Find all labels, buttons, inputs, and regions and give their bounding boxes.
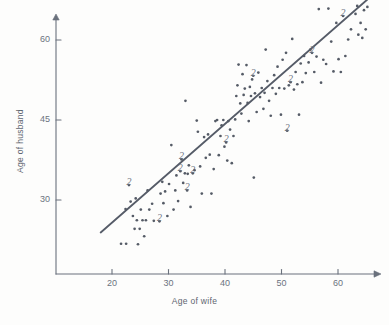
- data-point: [236, 84, 239, 87]
- data-point: [132, 215, 135, 218]
- data-point: [146, 189, 149, 192]
- data-point: [291, 38, 294, 41]
- data-point: [200, 192, 203, 195]
- x-tick-label-60: 60: [326, 278, 350, 288]
- data-point: [296, 83, 299, 86]
- data-point: [313, 71, 316, 74]
- x-tick-label-50: 50: [270, 278, 294, 288]
- data-point: [281, 58, 284, 61]
- duplicate-count-label: 2: [185, 181, 190, 192]
- data-point: [320, 81, 323, 84]
- data-point: [136, 219, 139, 222]
- data-point: [359, 22, 362, 25]
- data-point: [339, 71, 342, 74]
- data-point: [250, 95, 253, 98]
- data-point: [275, 93, 278, 96]
- data-point: [299, 62, 302, 65]
- data-point: [241, 73, 244, 76]
- data-point: [208, 153, 211, 156]
- data-point: [239, 102, 242, 105]
- data-point: [249, 86, 252, 89]
- data-point: [203, 136, 206, 139]
- data-point: [210, 192, 213, 195]
- data-point: [317, 8, 320, 11]
- duplicate-count-label: 2: [157, 212, 162, 223]
- data-point: [234, 118, 237, 121]
- data-point: [280, 113, 283, 116]
- data-point: [174, 189, 177, 192]
- data-point: [141, 219, 144, 222]
- data-point: [327, 7, 330, 10]
- data-point: [230, 162, 233, 165]
- data-point: [361, 37, 364, 40]
- data-point: [138, 227, 141, 230]
- data-point: [347, 38, 350, 41]
- data-point: [175, 174, 178, 177]
- data-point: [129, 200, 132, 203]
- data-point: [226, 159, 229, 162]
- axes-group: [53, 14, 381, 277]
- data-point: [219, 135, 222, 138]
- data-point: [356, 5, 359, 8]
- y-tick-label-60: 60: [28, 34, 50, 44]
- data-point: [217, 154, 220, 157]
- data-point: [273, 74, 276, 77]
- data-points-group: [120, 5, 369, 246]
- duplicate-count-label: 2: [288, 73, 293, 84]
- data-point: [216, 119, 219, 122]
- data-point: [237, 63, 240, 66]
- data-point: [366, 6, 369, 9]
- data-point: [159, 192, 162, 195]
- data-point: [223, 145, 226, 148]
- data-point: [364, 28, 367, 31]
- data-point: [271, 87, 274, 90]
- data-point: [268, 99, 271, 102]
- data-point: [199, 165, 202, 168]
- data-point: [145, 219, 148, 222]
- data-point: [245, 64, 248, 67]
- plot-canvas: 222222222222: [0, 0, 389, 325]
- data-point: [252, 176, 255, 179]
- data-point: [254, 92, 257, 95]
- data-point: [170, 144, 173, 147]
- data-point: [133, 227, 136, 230]
- data-point: [354, 13, 357, 16]
- duplicate-count-label: 2: [285, 122, 290, 133]
- y-tick-label-30: 30: [28, 194, 50, 204]
- data-point: [246, 102, 249, 105]
- duplicate-count-label: 2: [190, 164, 195, 175]
- data-point: [242, 94, 245, 97]
- duplicate-count-label: 2: [251, 67, 256, 78]
- data-point: [307, 61, 310, 64]
- data-point: [269, 114, 272, 117]
- data-point: [350, 28, 353, 31]
- data-point: [325, 63, 328, 66]
- data-point: [207, 133, 210, 136]
- data-point: [143, 235, 146, 238]
- y-tick-label-45: 45: [28, 114, 50, 124]
- data-point: [285, 51, 288, 54]
- duplicate-count-label: 2: [179, 150, 184, 161]
- data-point: [298, 113, 301, 116]
- data-point: [235, 95, 238, 98]
- data-point: [363, 9, 366, 12]
- data-point: [294, 71, 297, 74]
- data-point: [177, 200, 180, 203]
- data-point: [266, 80, 269, 83]
- data-point: [227, 120, 230, 123]
- data-point: [161, 181, 164, 184]
- data-point: [186, 173, 189, 176]
- regression-line-group: [101, 0, 368, 233]
- data-point: [125, 242, 128, 245]
- data-point: [243, 87, 246, 90]
- data-point: [357, 33, 360, 36]
- data-point: [255, 111, 258, 114]
- data-point: [283, 87, 286, 90]
- x-tick-label-40: 40: [213, 278, 237, 288]
- duplicate-count-label: 2: [341, 7, 346, 18]
- data-point: [278, 87, 281, 90]
- data-point: [264, 48, 267, 51]
- duplicate-count-label: 2: [310, 44, 315, 55]
- data-point: [330, 40, 333, 43]
- duplicate-count-label: 2: [126, 176, 131, 187]
